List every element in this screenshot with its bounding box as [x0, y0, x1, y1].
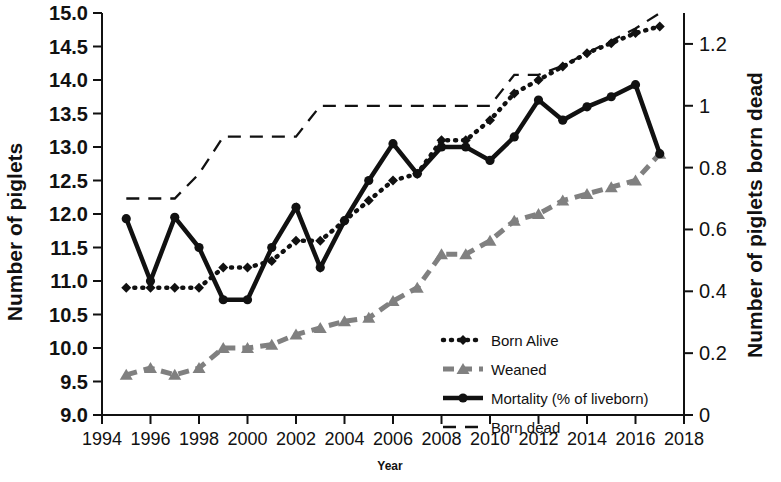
data-point-marker — [437, 142, 446, 151]
left-tick-label: 14.0 — [49, 69, 88, 91]
left-tick-label: 9.5 — [60, 371, 88, 393]
x-tick-label: 2002 — [276, 429, 316, 449]
data-point-marker — [558, 116, 567, 125]
data-point-marker — [510, 132, 519, 141]
data-point-marker — [291, 203, 300, 212]
x-tick-label: 2006 — [373, 429, 413, 449]
data-point-marker — [194, 243, 203, 252]
piglet-production-line-chart: Number of piglets Number of piglets born… — [0, 0, 781, 482]
data-point-marker — [291, 236, 301, 246]
right-tick-label: 0.6 — [699, 218, 727, 240]
data-point-marker — [582, 48, 592, 58]
left-tick-label: 9.0 — [60, 404, 88, 426]
x-tick-label: 1996 — [130, 429, 170, 449]
x-tick-label: 2008 — [421, 429, 461, 449]
data-point-marker — [243, 295, 252, 304]
data-point-marker — [655, 149, 664, 158]
data-point-marker — [461, 142, 470, 151]
x-axis-ticks: 1994199619982000200220042006200820102012… — [82, 415, 704, 449]
data-point-marker — [364, 196, 374, 206]
data-point-marker — [607, 92, 616, 101]
data-point-marker — [340, 216, 349, 225]
data-point-marker — [146, 276, 155, 285]
data-point-marker — [435, 248, 448, 259]
legend-item-label: Mortality (% of liveborn) — [491, 390, 649, 407]
left-axis-title: Number of piglets — [3, 143, 26, 322]
series-layer — [120, 13, 667, 380]
legend-swatch-marker — [458, 393, 467, 402]
left-tick-label: 15.0 — [49, 2, 88, 24]
x-tick-label: 2016 — [615, 429, 655, 449]
right-tick-label: 0.4 — [699, 280, 727, 302]
right-axis-title-text: Number of piglets born dead — [743, 72, 766, 358]
right-tick-label: 1.2 — [699, 33, 727, 55]
right-tick-label: 0.2 — [699, 342, 727, 364]
data-point-marker — [316, 263, 325, 272]
data-point-marker — [582, 102, 591, 111]
series-line — [126, 26, 660, 287]
legend-item-label: Born dead — [491, 419, 560, 436]
data-point-marker — [219, 295, 228, 304]
data-point-marker — [267, 243, 276, 252]
x-axis-title: Year — [377, 459, 403, 473]
data-point-marker — [508, 215, 521, 226]
data-point-marker — [194, 283, 204, 293]
data-point-marker — [122, 214, 131, 223]
chart-figure: Number of piglets Number of piglets born… — [0, 0, 781, 482]
left-axis-title-text: Number of piglets — [3, 143, 26, 322]
left-tick-label: 13.5 — [49, 103, 88, 125]
data-point-marker — [170, 213, 179, 222]
data-point-marker — [364, 176, 373, 185]
data-point-marker — [411, 282, 424, 293]
data-point-marker — [655, 21, 665, 31]
legend-item-label: Weaned — [491, 361, 547, 378]
data-point-marker — [534, 96, 543, 105]
data-point-marker — [388, 139, 397, 148]
left-tick-label: 14.5 — [49, 36, 88, 58]
legend-swatch-marker — [458, 335, 468, 345]
right-tick-label: 0 — [699, 404, 710, 426]
x-tick-label: 2018 — [664, 429, 704, 449]
x-tick-label: 1998 — [179, 429, 219, 449]
left-tick-label: 10.5 — [49, 304, 88, 326]
x-axis-title-text: Year — [377, 459, 403, 473]
x-tick-label: 2014 — [567, 429, 607, 449]
series-mortality-of-liveborn — [122, 80, 665, 304]
data-point-marker — [413, 169, 422, 178]
left-axis-ticks: 9.09.510.010.511.011.512.012.513.013.514… — [49, 2, 102, 426]
data-point-marker — [121, 283, 131, 293]
left-tick-label: 13.0 — [49, 136, 88, 158]
right-tick-label: 0.8 — [699, 157, 727, 179]
x-tick-label: 2000 — [227, 429, 267, 449]
left-tick-label: 11.0 — [50, 270, 88, 292]
legend-item-weaned[interactable]: Weaned — [443, 361, 547, 378]
legend-item-mortality-of-liveborn[interactable]: Mortality (% of liveborn) — [443, 390, 649, 407]
data-point-marker — [485, 156, 494, 165]
right-axis-ticks: 00.20.40.60.811.2 — [684, 33, 727, 426]
x-tick-label: 2004 — [324, 429, 364, 449]
data-point-marker — [631, 80, 640, 89]
left-tick-label: 12.0 — [49, 203, 88, 225]
chart-legend: Born AliveWeanedMortality (% of liveborn… — [443, 332, 649, 436]
data-point-marker — [243, 263, 253, 273]
right-tick-label: 1 — [699, 95, 710, 117]
left-tick-label: 10.0 — [49, 337, 88, 359]
left-tick-label: 11.5 — [50, 237, 88, 259]
series-born-dead — [126, 13, 660, 199]
series-line — [126, 13, 660, 199]
legend-item-born-alive[interactable]: Born Alive — [443, 332, 559, 349]
data-point-marker — [170, 283, 180, 293]
data-point-marker — [484, 235, 497, 246]
legend-item-label: Born Alive — [491, 332, 559, 349]
left-tick-label: 12.5 — [49, 170, 88, 192]
series-line — [126, 85, 660, 300]
right-axis-title: Number of piglets born dead — [743, 72, 766, 358]
data-point-marker — [218, 263, 228, 273]
x-tick-label: 1994 — [82, 429, 122, 449]
